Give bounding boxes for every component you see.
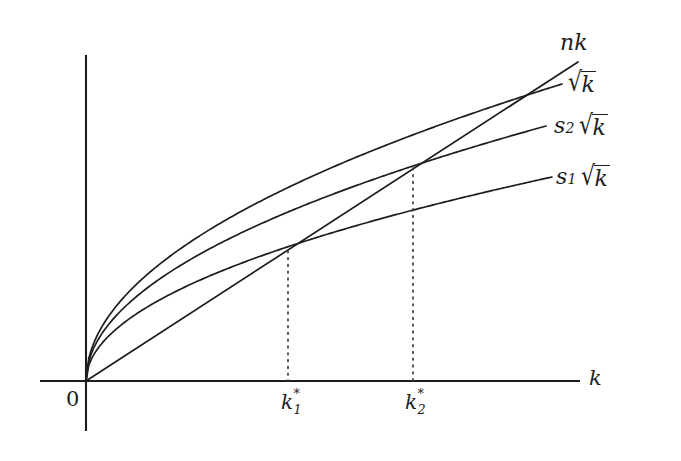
guides-group bbox=[288, 168, 413, 381]
curve-label-nk-k: k bbox=[574, 32, 587, 54]
curve-label-nk-n: n bbox=[560, 32, 574, 54]
tick-label-k1-base: k bbox=[281, 392, 293, 412]
curve-label-s2-radicand: k bbox=[592, 114, 608, 139]
tick-label-k2-base: k bbox=[405, 392, 417, 412]
curve-sqrt_k bbox=[86, 84, 562, 381]
curve-label-s2-s: s bbox=[554, 115, 565, 137]
curve-label-s1-subscript: 1 bbox=[567, 172, 576, 186]
tick-label-k2-subscript: 2 bbox=[417, 404, 425, 416]
curve-label-sqrt-k: √k bbox=[568, 72, 596, 97]
curve-label-s2-sqrt-k: s2√k bbox=[554, 115, 608, 140]
tick-label-k2-star: k*2 bbox=[405, 392, 425, 416]
tick-label-k1-star-mark: * bbox=[293, 388, 299, 400]
curve-label-s1-sqrt-k: s1√k bbox=[556, 166, 610, 191]
curve-label-s1-s: s bbox=[556, 166, 567, 188]
curve-s1_sqrt_k bbox=[86, 177, 552, 381]
axes-group bbox=[40, 55, 580, 431]
origin-label: 0 bbox=[66, 389, 79, 410]
solow-diagram-figure: nk √k s2√k s1√k k 0 k*1 k*2 bbox=[0, 0, 681, 461]
x-axis-label: k bbox=[589, 368, 602, 389]
curve-label-s2-subscript: 2 bbox=[565, 121, 574, 135]
curve-nk bbox=[86, 62, 578, 381]
curves-group bbox=[86, 62, 578, 381]
curve-label-sqrt-k-radicand: k bbox=[581, 71, 597, 96]
radical-icon: √k bbox=[579, 115, 607, 140]
tick-label-k1-star: k*1 bbox=[281, 392, 301, 416]
radical-icon: √k bbox=[568, 72, 596, 97]
curve-label-s1-radicand: k bbox=[594, 165, 610, 190]
tick-label-k2-star-mark: * bbox=[417, 388, 423, 400]
tick-label-k1-subscript: 1 bbox=[293, 404, 301, 416]
radical-icon: √k bbox=[581, 166, 609, 191]
curve-s2_sqrt_k bbox=[86, 126, 546, 381]
curve-label-nk: nk bbox=[560, 32, 588, 54]
